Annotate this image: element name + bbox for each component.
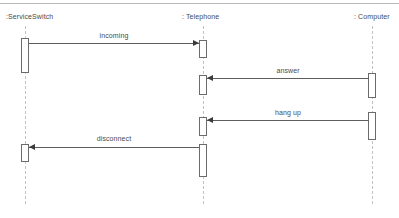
- lifeline-label-serviceswitch: :ServiceSwitch: [6, 12, 53, 21]
- message-arrowhead-disconnect-icon: [29, 144, 35, 150]
- message-label-incoming: incoming: [84, 31, 144, 40]
- activation-telephone-1[interactable]: [199, 40, 207, 58]
- top-divider-rule: [0, 3, 399, 4]
- message-label-answer: answer: [258, 66, 318, 75]
- activation-serviceswitch-2[interactable]: [21, 144, 29, 162]
- message-label-disconnect: disconnect: [82, 134, 146, 143]
- activation-telephone-2[interactable]: [199, 75, 207, 95]
- message-arrowhead-incoming-icon: [193, 40, 199, 46]
- activation-computer-2[interactable]: [368, 112, 376, 140]
- message-line-disconnect[interactable]: [29, 147, 199, 148]
- message-line-incoming[interactable]: [29, 43, 199, 44]
- message-arrowhead-hang-up-icon: [207, 117, 213, 123]
- activation-telephone-3[interactable]: [199, 117, 207, 136]
- activation-computer-1[interactable]: [368, 73, 376, 98]
- activation-serviceswitch-1[interactable]: [21, 38, 29, 73]
- message-line-hang-up[interactable]: [207, 120, 369, 121]
- lifeline-label-computer: : Computer: [354, 12, 390, 21]
- sequence-diagram-canvas: :ServiceSwitch : Telephone : Computer in…: [0, 0, 399, 218]
- message-arrowhead-answer-icon: [207, 75, 213, 81]
- message-label-hang-up: hang up: [258, 108, 318, 117]
- message-line-answer[interactable]: [207, 78, 369, 79]
- lifeline-label-telephone: : Telephone: [182, 12, 219, 21]
- activation-telephone-4[interactable]: [199, 144, 207, 177]
